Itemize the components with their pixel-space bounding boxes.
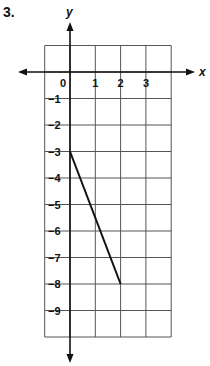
coordinate-plane: xy0123−1−2−3−4−5−6−7−8−9 bbox=[0, 0, 210, 366]
y-tick-label: −5 bbox=[48, 199, 61, 211]
x-axis-label: x bbox=[198, 65, 207, 79]
y-tick-label: −6 bbox=[48, 225, 61, 237]
y-axis-up-arrow-icon bbox=[67, 22, 74, 31]
x-axis-left-arrow-icon bbox=[18, 69, 27, 76]
x-tick-label: 3 bbox=[143, 77, 149, 89]
y-tick-label: −2 bbox=[48, 119, 61, 131]
x-tick-label: 0 bbox=[60, 77, 66, 89]
x-tick-label: 1 bbox=[92, 77, 98, 89]
y-tick-label: −4 bbox=[48, 172, 61, 184]
y-tick-label: −1 bbox=[48, 93, 61, 105]
y-axis-down-arrow-icon bbox=[67, 354, 74, 363]
y-tick-label: −7 bbox=[48, 252, 61, 264]
x-axis-right-arrow-icon bbox=[186, 69, 195, 76]
y-tick-label: −3 bbox=[48, 146, 61, 158]
y-axis-label: y bbox=[65, 5, 74, 19]
x-tick-label: 2 bbox=[118, 77, 124, 89]
y-tick-label: −9 bbox=[48, 305, 61, 317]
y-tick-label: −8 bbox=[48, 278, 61, 290]
